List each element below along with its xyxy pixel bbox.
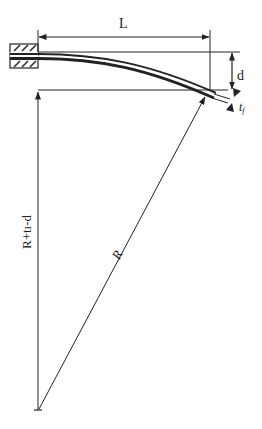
- vertical-dimension: R+tı-d: [19, 92, 42, 410]
- deflection-dimension: d: [232, 53, 244, 89]
- length-label: L: [119, 16, 128, 31]
- radius-label: R: [108, 248, 125, 263]
- diagram-canvas: L d tf R+tı-d R: [0, 0, 262, 429]
- radius-line: R: [39, 97, 205, 409]
- thickness-label: tf: [239, 100, 246, 115]
- thickness-marker: tf: [226, 88, 246, 115]
- vertical-dimension-label: R+tı-d: [19, 214, 34, 249]
- deflection-label: d: [237, 68, 244, 83]
- length-dimension: L: [38, 16, 210, 90]
- beam: [10, 54, 230, 103]
